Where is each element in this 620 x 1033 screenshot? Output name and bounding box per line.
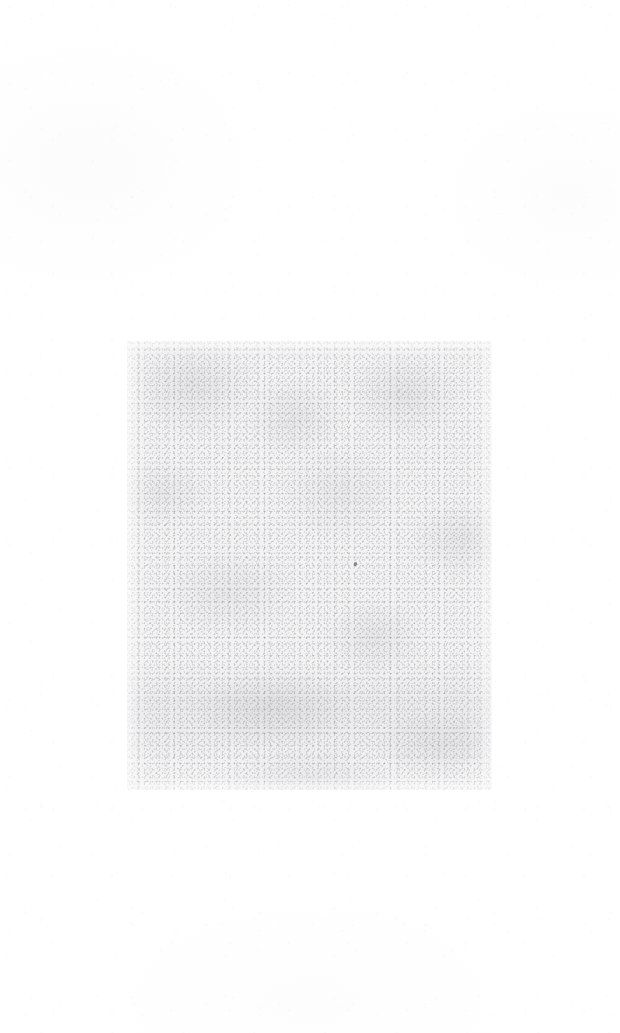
page-text-content xyxy=(0,0,1,1)
scanned-page xyxy=(0,0,620,1033)
blank-scanned-image-region xyxy=(127,341,492,790)
scan-region-edge-fade xyxy=(127,341,492,790)
